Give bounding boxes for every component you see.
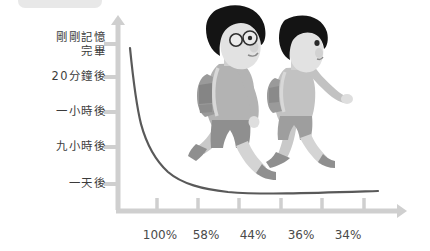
x-tick-label-3: 36% bbox=[288, 228, 315, 242]
student-behind bbox=[266, 16, 353, 168]
x-tick-label-4: 34% bbox=[335, 228, 362, 242]
two-students-walking-illustration bbox=[186, 2, 366, 184]
x-tick-label-2: 44% bbox=[240, 228, 267, 242]
chart-canvas: 剛剛記憶 完畢 20分鐘後 一小時後 九小時後 一天後 100% 58% 44%… bbox=[0, 0, 430, 251]
x-tick-label-1: 58% bbox=[193, 228, 220, 242]
student-with-glasses bbox=[188, 5, 276, 180]
x-tick-label-0: 100% bbox=[143, 228, 177, 242]
